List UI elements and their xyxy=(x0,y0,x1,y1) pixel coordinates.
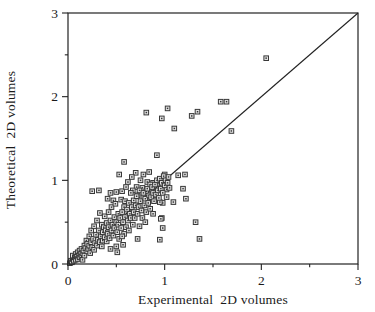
svg-text:0: 0 xyxy=(65,273,72,288)
svg-text:3: 3 xyxy=(355,273,362,288)
x-tick-labels: 0123 xyxy=(65,273,362,288)
y-axis-title: Theoretical 2D volumes xyxy=(3,12,19,268)
svg-text:3: 3 xyxy=(51,6,58,21)
y-tick-labels: 0123 xyxy=(51,6,58,272)
svg-text:1: 1 xyxy=(161,273,168,288)
svg-text:2: 2 xyxy=(258,273,265,288)
svg-text:2: 2 xyxy=(51,89,58,104)
scatter-figure: 01230123 Experimental 2D volumes Theoret… xyxy=(0,0,375,312)
plot-canvas: 01230123 xyxy=(0,0,375,312)
data-points xyxy=(68,56,269,266)
svg-text:0: 0 xyxy=(51,257,58,272)
svg-text:1: 1 xyxy=(51,173,58,188)
x-axis-title: Experimental 2D volumes xyxy=(68,292,358,308)
